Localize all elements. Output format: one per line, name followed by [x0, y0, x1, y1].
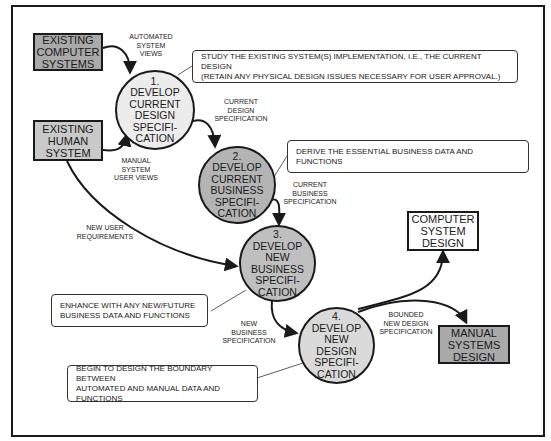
entity-existing-computer-systems: EXISTING COMPUTER SYSTEMS — [33, 33, 103, 71]
process-line: CATION — [317, 369, 356, 381]
label-manual-system-user-views: MANUAL SYSTEM USER VIEWS — [106, 157, 166, 183]
process-line: DESIGN — [135, 110, 175, 122]
process-line: CATION — [136, 133, 175, 145]
entity-manual-systems-design: MANUAL SYSTEMS DESIGN — [438, 325, 510, 364]
note-study-existing-system: STUDY THE EXISTING SYSTEM(S) IMPLEMENTAT… — [192, 50, 518, 83]
process-3-develop-new-business: 3. DEVELOP NEW BUSINESS SPECIFI- CATION — [239, 225, 316, 302]
note-line: BEGIN TO DESIGN THE BOUNDARY BETWEEN — [76, 364, 249, 384]
label-current-business-specification: CURRENT BUSINESS SPECIFICATION — [275, 181, 345, 207]
note1-leader — [178, 66, 192, 75]
flow-manual-views — [103, 135, 127, 150]
note4-leader — [257, 362, 306, 378]
process-line: SPECIFI- — [314, 357, 358, 369]
note-line: (RETAIN ANY PHYSICAL DESIGN ISSUES NECES… — [201, 72, 509, 82]
process-2-develop-current-business: 2. DEVELOP CURRENT BUSINESS SPECIFI- CAT… — [198, 146, 276, 224]
process-line: CATION — [218, 208, 257, 220]
note-enhance-new-future: ENHANCE WITH ANY NEW/FUTURE BUSINESS DAT… — [51, 294, 208, 327]
flow-current-design-spec — [190, 120, 215, 146]
process-line: NEW — [265, 252, 290, 264]
note-line: STUDY THE EXISTING SYSTEM(S) IMPLEMENTAT… — [201, 52, 509, 72]
process-line: NEW — [324, 334, 349, 346]
entity-existing-human-system: EXISTING HUMAN SYSTEM — [33, 120, 103, 161]
label-automated-system-views: AUTOMATED SYSTEM VIEWS — [122, 33, 180, 59]
process-line: DEVELOP — [212, 162, 262, 174]
note-line: DERIVE THE ESSENTIAL BUSINESS DATA AND F… — [296, 147, 520, 167]
process-line: DEVELOP — [130, 87, 180, 99]
process-4-develop-new-design: 4. DEVELOP NEW DESIGN SPECIFI- CATION — [298, 307, 375, 384]
process-line: BUSINESS — [210, 185, 263, 197]
label-new-business-specification: NEW BUSINESS SPECIFICATION — [213, 320, 285, 346]
note-line: FUNCTIONS — [76, 394, 249, 404]
note-design-boundary: BEGIN TO DESIGN THE BOUNDARY BETWEEN AUT… — [67, 365, 258, 402]
note-line: ENHANCE WITH ANY NEW/FUTURE — [60, 301, 199, 311]
note-line: AUTOMATED AND MANUAL DATA AND — [76, 384, 249, 394]
label-current-design-specification: CURRENT DESIGN SPECIFICATION — [208, 98, 274, 124]
note-line: BUSINESS DATA AND FUNCTIONS — [60, 311, 199, 321]
label-new-user-requirements: NEW USER REQUIREMENTS — [74, 224, 136, 241]
process-number: 3. — [273, 229, 282, 241]
note3-leader — [211, 290, 246, 311]
entity-computer-system-design: COMPUTER SYSTEM DESIGN — [407, 211, 479, 251]
process-1-develop-current-design: 1. DEVELOP CURRENT DESIGN SPECIFI- CATIO… — [115, 70, 195, 150]
label-bounded-new-design-specification: BOUNDED NEW DESIGN SPECIFICATION — [373, 311, 439, 337]
process-line: CATION — [258, 287, 297, 299]
note-derive-essential: DERIVE THE ESSENTIAL BUSINESS DATA AND F… — [287, 140, 529, 173]
process-number: 4. — [332, 311, 341, 323]
process-line: SPECIFI- — [255, 275, 299, 287]
